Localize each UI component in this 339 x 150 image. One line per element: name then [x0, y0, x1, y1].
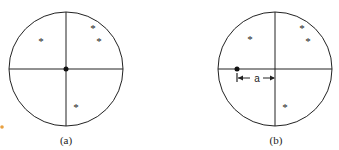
panel-a: * * * * (a): [9, 12, 123, 147]
panel-label-b: (b): [270, 134, 283, 147]
arrowhead-left-icon: [238, 76, 243, 81]
star-icon: *: [73, 101, 79, 113]
star-icon: *: [38, 35, 44, 47]
arrowhead-right-icon: [270, 76, 275, 81]
diagram-canvas: * * * * (a) a * * * * (b): [0, 0, 339, 150]
star-icon: *: [282, 101, 288, 113]
star-icon: *: [96, 35, 102, 47]
panel-label-a: (a): [60, 134, 73, 147]
dimension-label: a: [254, 73, 260, 84]
accent-dot: [0, 125, 4, 129]
star-icon: *: [305, 35, 311, 47]
star-icon: *: [299, 22, 305, 34]
offset-dot-b: [235, 67, 240, 72]
center-dot-a: [64, 67, 69, 72]
star-icon: *: [247, 33, 253, 45]
star-icon: *: [90, 22, 96, 34]
panel-b: a * * * * (b): [218, 12, 332, 147]
